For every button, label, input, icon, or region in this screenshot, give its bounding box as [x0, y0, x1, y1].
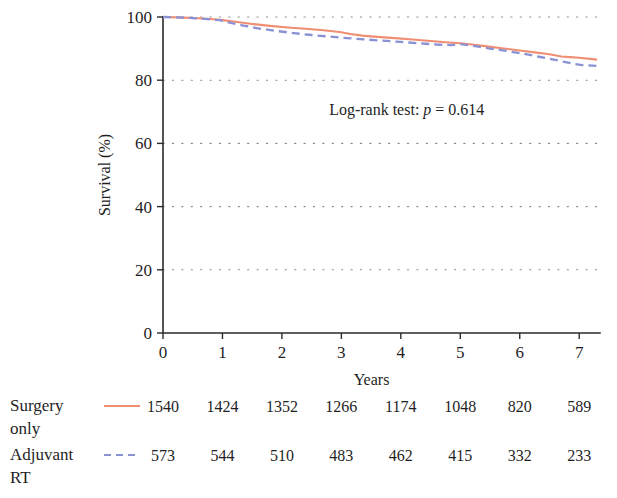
log-rank-prefix: Log-rank test:: [329, 101, 423, 119]
risk-row-label-line1: Surgery: [10, 396, 64, 415]
risk-count-year-5: 1048: [444, 398, 476, 415]
risk-count-year-6: 820: [508, 398, 532, 415]
x-tick-label-5: 5: [456, 343, 465, 362]
y-tick-label-40: 40: [135, 198, 152, 217]
y-tick-label-20: 20: [135, 261, 152, 280]
y-axis-title: Survival (%): [96, 134, 114, 216]
gridlines-group: [163, 17, 600, 270]
risk-count-year-0: 1540: [147, 398, 179, 415]
risk-table-group: Surgeryonly15401424135212661174104882058…: [10, 396, 591, 487]
x-tick-label-1: 1: [218, 343, 227, 362]
series-line-adjuvant-rt: [163, 17, 597, 66]
risk-count-year-6: 332: [508, 447, 532, 464]
risk-row-label-line1: Adjuvant: [10, 445, 74, 464]
log-rank-annotation: Log-rank test: p = 0.614: [329, 101, 484, 119]
x-tick-label-3: 3: [337, 343, 346, 362]
x-tick-label-2: 2: [278, 343, 287, 362]
y-tick-label-100: 100: [127, 8, 153, 27]
risk-count-year-3: 483: [329, 447, 353, 464]
p-value-symbol: p: [422, 101, 431, 119]
risk-count-year-2: 1352: [266, 398, 298, 415]
annotations-group: Log-rank test: p = 0.614: [329, 101, 484, 119]
risk-row-label-line2: only: [10, 419, 41, 438]
x-tick-label-6: 6: [515, 343, 524, 362]
x-tick-label-4: 4: [397, 343, 406, 362]
axes-group: [163, 17, 600, 333]
risk-count-year-5: 415: [448, 447, 472, 464]
risk-row-label-line2: RT: [10, 468, 31, 487]
risk-count-year-4: 462: [389, 447, 413, 464]
risk-count-year-2: 510: [270, 447, 294, 464]
risk-row-surgery-only: Surgeryonly15401424135212661174104882058…: [10, 396, 591, 438]
risk-count-year-1: 1424: [206, 398, 238, 415]
y-tick-label-80: 80: [135, 71, 152, 90]
axis-ticks-group: 02040608010001234567YearsSurvival (%): [96, 8, 584, 388]
series-group: [163, 17, 597, 66]
survival-chart-figure: 02040608010001234567YearsSurvival (%) Lo…: [0, 0, 617, 498]
risk-count-year-0: 573: [151, 447, 175, 464]
risk-count-year-7: 589: [567, 398, 591, 415]
p-value-number: = 0.614: [431, 101, 484, 118]
y-tick-label-60: 60: [135, 134, 152, 153]
x-tick-label-7: 7: [575, 343, 584, 362]
risk-count-year-1: 544: [210, 447, 234, 464]
risk-count-year-3: 1266: [325, 398, 357, 415]
risk-row-adjuvant-rt: AdjuvantRT573544510483462415332233: [10, 445, 591, 487]
risk-count-year-4: 1174: [385, 398, 416, 415]
axis-lines: [163, 17, 600, 333]
y-tick-label-0: 0: [144, 324, 153, 343]
x-tick-label-0: 0: [159, 343, 168, 362]
risk-count-year-7: 233: [567, 447, 591, 464]
x-axis-title: Years: [354, 371, 390, 388]
